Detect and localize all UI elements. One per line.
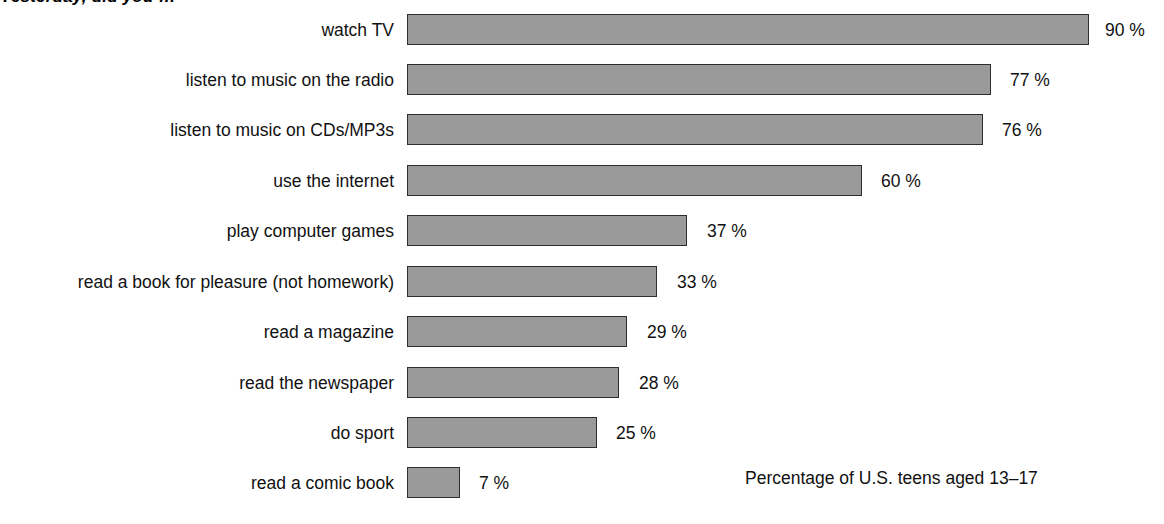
bar [407, 266, 657, 297]
bar-wrapper [407, 467, 460, 498]
chart-row: listen to music on the radio 77 % [0, 64, 1164, 95]
bar-wrapper [407, 417, 597, 448]
chart-plot-area: watch TV 90 % listen to music on the rad… [0, 0, 1164, 524]
chart-row: play computer games 37 % [0, 215, 1164, 246]
chart-row: read a book for pleasure (not homework) … [0, 266, 1164, 297]
chart-row: read a magazine 29 % [0, 316, 1164, 347]
bar [407, 367, 619, 398]
chart-caption: Percentage of U.S. teens aged 13–17 [745, 468, 1038, 488]
bar-value-label: 37 % [707, 221, 747, 241]
bar-value-label: 29 % [647, 322, 687, 342]
chart-row: listen to music on CDs/MP3s 76 % [0, 114, 1164, 145]
bar-value-label: 76 % [1002, 120, 1042, 140]
bar-wrapper [407, 266, 657, 297]
bar-wrapper [407, 367, 619, 398]
bar-category-label: listen to music on CDs/MP3s [0, 120, 394, 140]
bar-category-label: play computer games [0, 221, 394, 241]
bar-category-label: read the newspaper [0, 373, 394, 393]
bar-value-label: 28 % [639, 373, 679, 393]
bar-wrapper [407, 316, 627, 347]
bar-value-label: 90 % [1105, 20, 1145, 40]
bar-value-label: 60 % [881, 171, 921, 191]
chart-row: use the internet 60 % [0, 165, 1164, 196]
chart-row: do sport 25 % [0, 417, 1164, 448]
bar-value-label: 77 % [1010, 70, 1050, 90]
bar [407, 417, 597, 448]
chart-row: read the newspaper 28 % [0, 367, 1164, 398]
bar-wrapper [407, 165, 862, 196]
bar [407, 114, 983, 145]
bar-value-label: 7 % [479, 473, 509, 493]
chart-row: watch TV 90 % [0, 14, 1164, 45]
bar [407, 215, 687, 246]
bar-category-label: listen to music on the radio [0, 70, 394, 90]
bar-wrapper [407, 64, 991, 95]
bar [407, 467, 460, 498]
bar-category-label: read a book for pleasure (not homework) [0, 272, 394, 292]
bar [407, 165, 862, 196]
bar-wrapper [407, 14, 1089, 45]
bar [407, 14, 1089, 45]
bar-wrapper [407, 215, 687, 246]
bar-category-label: watch TV [0, 20, 394, 40]
bar [407, 316, 627, 347]
bar-chart: Yesterday, did you … watch TV 90 % liste… [0, 0, 1164, 524]
bar-category-label: read a comic book [0, 473, 394, 493]
bar [407, 64, 991, 95]
bar-wrapper [407, 114, 983, 145]
bar-category-label: do sport [0, 423, 394, 443]
bar-value-label: 25 % [616, 423, 656, 443]
bar-value-label: 33 % [677, 272, 717, 292]
bar-category-label: read a magazine [0, 322, 394, 342]
bar-category-label: use the internet [0, 171, 394, 191]
